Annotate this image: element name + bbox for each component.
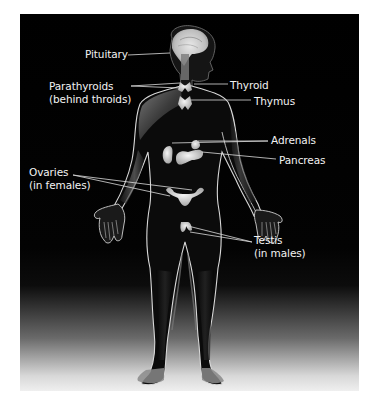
leader-line-parathyroids-2 [131,86,180,88]
label-testis: Testis (in males) [254,234,306,259]
label-adrenals: Adrenals [271,134,316,147]
label-pancreas: Pancreas [279,154,325,167]
label-ovaries: Ovaries (in females) [29,166,91,191]
endocrine-diagram: Pituitary Parathyroids (behind throids) … [0,0,375,404]
label-pituitary: Pituitary [85,48,128,61]
leader-line-parathyroids-1 [131,83,180,86]
label-parathyroids: Parathyroids (behind throids) [49,80,131,105]
body-illustration [0,0,375,404]
label-thymus: Thymus [254,95,295,108]
label-thyroid: Thyroid [230,79,269,92]
leader-line-pituitary [128,53,170,55]
